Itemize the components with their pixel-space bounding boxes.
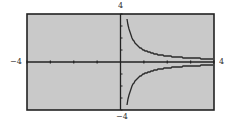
graph-screen [0, 0, 229, 123]
